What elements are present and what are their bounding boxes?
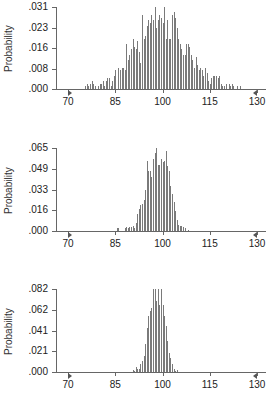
x-tick	[115, 373, 116, 376]
histogram-bar	[167, 341, 168, 372]
histogram-bar	[145, 190, 146, 231]
y-tick	[52, 148, 56, 149]
histogram-bar	[175, 211, 176, 231]
histogram-bar	[159, 305, 160, 372]
x-tick-label: 70	[53, 379, 83, 390]
histogram-bar	[153, 159, 154, 231]
histogram-bar	[129, 227, 130, 231]
histogram-bar	[140, 364, 141, 372]
x-axis	[56, 372, 266, 373]
y-tick-label: .082	[8, 283, 48, 294]
x-tick	[257, 373, 258, 376]
histogram-bar	[131, 227, 132, 231]
histogram-bar	[153, 289, 154, 372]
histogram-bar	[134, 371, 135, 372]
histogram-bar	[126, 227, 127, 231]
y-axis-label: Probability	[3, 167, 14, 214]
histogram-bar	[151, 177, 152, 231]
y-tick-label: .016	[8, 204, 48, 215]
x-tick-label: 70	[53, 238, 83, 249]
x-tick-label: 100	[148, 238, 178, 249]
y-tick	[52, 351, 56, 352]
histogram-bar	[188, 230, 189, 231]
x-tick-label: 85	[100, 379, 130, 390]
x-tick	[115, 232, 116, 235]
histogram-bar	[181, 226, 182, 231]
histogram-bar	[156, 301, 157, 372]
y-tick-label: .041	[8, 325, 48, 336]
range-marker-right-icon	[253, 232, 257, 238]
histogram-bar	[134, 228, 135, 231]
y-tick-label: .021	[8, 345, 48, 356]
x-axis	[56, 231, 266, 232]
y-axis-label: Probability	[3, 308, 14, 355]
histogram-bar	[167, 166, 168, 231]
histogram-bar	[164, 316, 165, 372]
range-marker-right-icon	[253, 373, 257, 379]
y-tick-label: .049	[8, 163, 48, 174]
histogram-bar	[137, 214, 138, 231]
x-tick	[163, 373, 164, 376]
histogram-bar	[142, 361, 143, 372]
range-marker-left-icon	[68, 373, 72, 379]
histogram-bar	[161, 159, 162, 231]
range-marker-left-icon	[68, 232, 72, 238]
histogram-bar	[151, 308, 152, 372]
x-tick-label: 100	[148, 379, 178, 390]
y-tick-label: .033	[8, 184, 48, 195]
y-tick-label: .000	[8, 366, 48, 377]
x-tick-label: 130	[242, 379, 272, 390]
x-tick	[210, 373, 211, 376]
histogram-bar	[148, 316, 149, 372]
y-tick	[52, 169, 56, 170]
histogram-bar	[170, 186, 171, 231]
y-axis	[56, 289, 57, 373]
histogram-bar	[142, 204, 143, 231]
histogram-bar	[172, 364, 173, 372]
histogram-bar	[137, 369, 138, 372]
histogram-panel-3: .082.062.041.021.000Probability708510011…	[0, 0, 279, 131]
histogram-bar	[159, 165, 160, 231]
x-tick-label: 115	[195, 379, 225, 390]
histogram-bar	[172, 194, 173, 231]
histogram-bar	[161, 289, 162, 372]
x-tick-label: 130	[242, 238, 272, 249]
y-axis	[56, 148, 57, 232]
y-tick	[52, 210, 56, 211]
x-tick-label: 85	[100, 238, 130, 249]
y-tick	[52, 310, 56, 311]
x-tick	[210, 232, 211, 235]
histogram-bar	[140, 205, 141, 231]
y-tick-label: .065	[8, 142, 48, 153]
x-tick-label: 115	[195, 238, 225, 249]
histogram-bar	[156, 148, 157, 231]
histogram-bar	[145, 344, 146, 372]
y-tick	[52, 190, 56, 191]
histogram-bar	[185, 228, 186, 231]
y-tick-label: .062	[8, 304, 48, 315]
histogram-bar	[118, 228, 119, 231]
x-tick	[163, 232, 164, 235]
histogram-bar	[170, 358, 171, 372]
histogram-bar	[164, 161, 165, 231]
histogram-bar	[183, 227, 184, 231]
histogram-bar	[177, 370, 178, 372]
histogram-bar	[148, 171, 149, 231]
y-tick	[52, 289, 56, 290]
y-tick	[52, 331, 56, 332]
histogram-bar	[175, 371, 176, 372]
x-tick	[257, 232, 258, 235]
histogram-bar	[178, 225, 179, 231]
y-tick-label: .000	[8, 225, 48, 236]
